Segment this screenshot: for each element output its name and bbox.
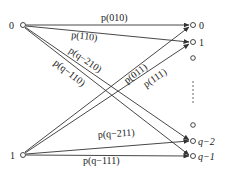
edge-0-to-q2	[25, 27, 189, 140]
channel-diagram: 0 1 0 1 q−2 q−1 p(010) p(110) p(q−210) p…	[0, 0, 227, 176]
right-label-q1: q−1	[198, 151, 215, 162]
edge-label-q111: p(q−111)	[83, 155, 120, 167]
left-node-1	[21, 153, 26, 158]
right-node-q2	[191, 139, 196, 144]
edge-label-010: p(010)	[101, 12, 128, 24]
edge-label-q211: p(q−211)	[97, 126, 135, 141]
right-label-0: 0	[199, 20, 204, 31]
left-label-0: 0	[9, 20, 14, 31]
left-node-0	[21, 23, 26, 28]
right-label-q2: q−2	[198, 136, 215, 147]
edge-0-to-1	[26, 26, 189, 42]
right-node-1	[191, 40, 196, 45]
edge-1-to-q2	[26, 141, 189, 154]
ellipsis-vertical-icon	[192, 81, 193, 102]
edge-label-110: p(110)	[71, 29, 98, 44]
right-label-1: 1	[199, 37, 204, 48]
right-node-q1	[191, 154, 196, 159]
right-node-2	[191, 56, 196, 61]
right-node-0	[191, 23, 196, 28]
right-node-q3	[191, 123, 196, 128]
left-label-1: 1	[10, 150, 15, 161]
